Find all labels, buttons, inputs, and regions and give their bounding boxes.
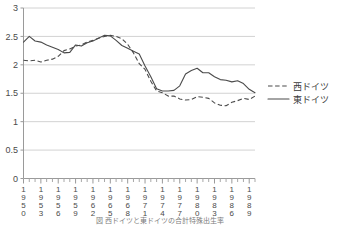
x-axis-tick-label-digit: 6 — [230, 209, 235, 218]
line-chart: 32.521.510.50 19501953195619591962196519… — [0, 0, 338, 225]
y-axis-tick-label: 2 — [13, 60, 18, 70]
y-axis-tick-label: 1 — [13, 117, 18, 127]
legend-label-west-germany: 西ドイツ — [293, 82, 329, 92]
x-axis-labels-group: 1950195319561959196219651968197119741977… — [21, 185, 252, 218]
y-axis-labels-group: 32.521.510.50 — [5, 3, 18, 184]
legend-label-east-germany: 東ドイツ — [293, 94, 329, 105]
y-axis-tick-label: 0.5 — [5, 145, 18, 155]
x-axis-tick-label-digit: 2 — [91, 209, 96, 218]
y-axis-tick-label: 2.5 — [5, 32, 18, 42]
y-axis-tick-label: 1.5 — [5, 88, 18, 98]
x-axis-tick-label-digit: 9 — [247, 209, 252, 218]
x-axis-tick-label-digit: 3 — [39, 209, 44, 218]
x-axis-tick-label-digit: 0 — [21, 209, 26, 218]
legend: 西ドイツ 東ドイツ — [268, 82, 329, 105]
series-line-west-germany — [24, 35, 256, 105]
figure-caption: 図 西ドイツと東ドイツの合計特殊出生率 — [96, 216, 224, 225]
y-axis-tick-label: 3 — [13, 3, 18, 13]
y-axis-tick-label: 0 — [13, 174, 18, 184]
x-axis-tick-label-digit: 9 — [73, 209, 78, 218]
chart-container: 32.521.510.50 19501953195619591962196519… — [0, 0, 338, 225]
x-axis-tick-label-digit: 6 — [56, 209, 61, 218]
x-axis-minor-ticks-group — [24, 179, 256, 184]
